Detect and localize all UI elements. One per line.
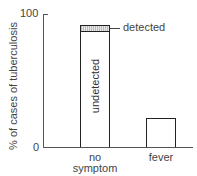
category-fever: fever [136, 152, 186, 163]
bar-fever [146, 118, 176, 147]
x-axis [43, 147, 193, 148]
category-no-symptom: no symptom [70, 152, 120, 174]
y-tick-0: 0 [33, 141, 39, 153]
detected-label: detected [123, 21, 165, 33]
y-tick-100: 100 [20, 7, 38, 19]
y-axis-label: % of cases of tuberculosis [7, 11, 19, 161]
category-label-line2: symptom [70, 163, 120, 174]
bar-segment-detected [81, 26, 109, 32]
y-axis-tick [43, 14, 48, 15]
y-axis [43, 14, 44, 148]
undetected-label: undetected [89, 51, 101, 121]
detected-leader-line [110, 28, 120, 29]
